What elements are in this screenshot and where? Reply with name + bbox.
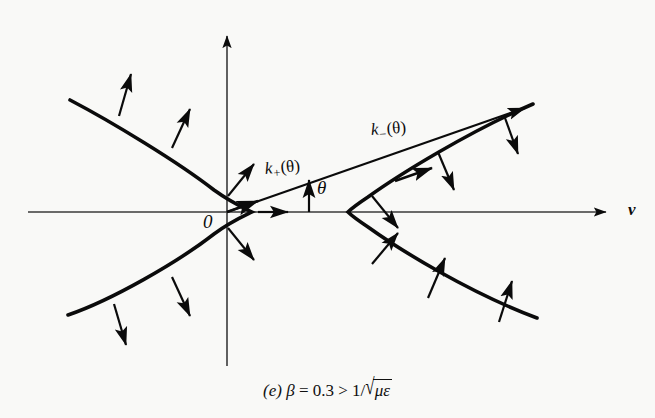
k-minus-label: k−(θ) <box>370 119 406 141</box>
origin-label: 0 <box>203 212 213 231</box>
normal-arrow <box>428 258 445 298</box>
radical-sign: √ <box>365 374 374 401</box>
normal-arrow <box>505 118 518 154</box>
figure-container: 0 v k+(θ) k−(θ) θ (e) β = 0.3 > 1/√με <box>0 0 655 418</box>
figure-canvas <box>0 0 655 418</box>
normal-arrow <box>438 152 454 190</box>
k-minus-argument: (θ) <box>386 118 407 138</box>
x-axis-label: v <box>628 201 636 218</box>
normal-arrows-left-lower <box>114 228 254 345</box>
caption-beta-value: 0.3 <box>313 381 334 400</box>
k-plus-letter: k <box>264 158 273 178</box>
normal-arrow <box>228 228 254 260</box>
normal-arrow <box>119 74 131 116</box>
caption-tag: (e) <box>263 381 282 400</box>
normal-arrow <box>114 304 126 345</box>
caption-equals: = <box>299 381 309 400</box>
normal-arrow <box>228 164 254 196</box>
k-plus-argument: (θ) <box>280 156 301 177</box>
figure-caption: (e) β = 0.3 > 1/√με <box>0 379 655 401</box>
k-plus-label: k+(θ) <box>264 157 301 180</box>
curve-k-plus-branch <box>68 100 252 315</box>
theta-label: θ <box>317 178 326 197</box>
caption-relation: > <box>338 381 348 400</box>
normal-arrows-left-upper <box>119 74 254 196</box>
caption-beta: β <box>286 381 294 400</box>
caption-radicand: με <box>373 379 392 401</box>
normal-arrow <box>172 277 190 316</box>
k-minus-letter: k <box>370 120 379 139</box>
caption-fraction: 1/ <box>352 381 365 400</box>
normal-arrow <box>172 109 190 148</box>
normal-arrows-right-lower <box>372 233 512 322</box>
axes-group <box>28 36 606 366</box>
